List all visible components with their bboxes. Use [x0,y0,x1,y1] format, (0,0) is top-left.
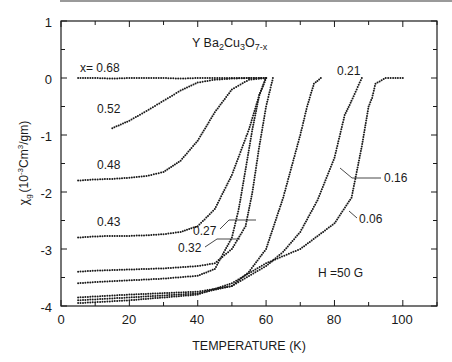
ytick-label: 0 [45,72,52,87]
xtick-label: 100 [391,312,413,327]
xtick-label: 40 [190,312,204,327]
x-axis-label: TEMPERATURE (K) [192,339,306,353]
ylabel-post: /gm) [17,121,31,145]
series-label-0.48: 0.48 [97,158,121,172]
ylabel-pre: (10 [17,175,31,193]
chart: 1 0 -1 -2 -3 -4 0 20 40 60 80 100 TEMPER… [0,0,452,362]
ytick-label: -1 [40,129,52,144]
xtick-label: 20 [122,312,136,327]
series-label-0.68: x= 0.68 [80,61,120,75]
ylabel-sub: g [24,194,33,198]
series-label-0.43: 0.43 [97,215,121,229]
series-label-0.32: 0.32 [178,241,202,255]
ytick-label: -4 [40,300,52,315]
xtick-label: 80 [327,312,341,327]
series-label-0.16: 0.16 [384,171,408,185]
y-axis-label: χg(10-3Cm3/gm) [16,121,33,205]
xtick-label: 0 [57,312,64,327]
series-label-0.27: 0.27 [193,224,217,238]
series-label-0.21: 0.21 [337,64,361,78]
chart-title: Y Ba2Cu3O7-x [192,36,268,52]
ytick-label: -3 [40,243,52,258]
series-label-0.06: 0.06 [359,212,383,226]
xtick-label: 60 [259,312,273,327]
leader-lines [205,168,381,247]
field-annotation: H =50 G [318,266,363,280]
svg-text:χg(10-3Cm3/gm): χg(10-3Cm3/gm) [16,121,33,205]
ytick-label: 1 [45,15,52,30]
ytick-label: -2 [40,186,52,201]
series-label-0.52: 0.52 [97,102,121,116]
ylabel-mid: Cm [17,149,31,168]
